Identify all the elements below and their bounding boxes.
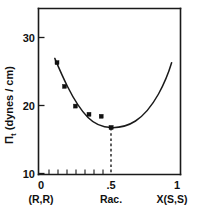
data-point-minimum (109, 125, 113, 129)
y-tick-label-10: 10 (23, 168, 35, 180)
x-sublabel-rr: (R,R) (28, 193, 53, 205)
data-markers (55, 61, 113, 130)
y-axis-title-units-text: (dynes / cm) (3, 66, 15, 131)
data-point-2 (63, 84, 67, 88)
y-tick-label-20: 20 (23, 100, 35, 112)
x-axis-title: X(S,S) (157, 193, 188, 205)
svg-text:Πt (dynes / cm): Πt (dynes / cm) (3, 66, 18, 144)
y-axis-title: Πt (dynes / cm) (3, 66, 18, 144)
y-tick-label-30: 30 (23, 32, 35, 44)
data-point-5 (99, 114, 103, 118)
data-point-1 (55, 61, 59, 65)
x-tick-label-half: .5 (106, 179, 115, 191)
data-point-4 (87, 112, 91, 116)
y-axis-title-symbol: Π (3, 136, 15, 144)
figure-container: 30 20 10 0 .5 1 (R,R) Rac. X(S,S) Πt (dy… (0, 0, 197, 211)
data-point-3 (73, 104, 77, 108)
y-axis-ticks (39, 38, 45, 174)
x-tick-label-1: 1 (174, 179, 180, 191)
chart-plot: 30 20 10 0 .5 1 (R,R) Rac. X(S,S) Πt (dy… (0, 0, 197, 211)
x-tick-label-0: 0 (38, 179, 44, 191)
data-curve (55, 58, 172, 127)
x-sublabel-racemic: Rac. (100, 193, 122, 205)
